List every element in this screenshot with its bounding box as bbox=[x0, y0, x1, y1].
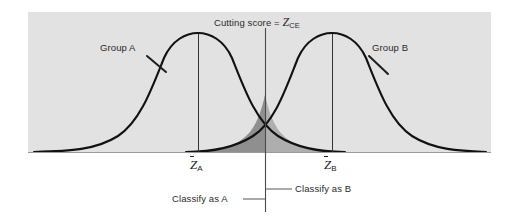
mean-label-group-b-subscript: B bbox=[331, 164, 336, 173]
mean-label-group-a-subscript: A bbox=[197, 164, 202, 173]
overbar-b bbox=[324, 156, 328, 157]
classify-as-b-label: Classify as B bbox=[295, 183, 351, 194]
cutting-score-title: Cutting score = ZCE bbox=[214, 15, 300, 30]
cutting-score-title-prefix: Cutting score = bbox=[214, 17, 282, 28]
mean-label-group-a: ZA bbox=[190, 155, 203, 173]
classify-as-a-label: Classify as A bbox=[172, 193, 228, 204]
diagram-canvas bbox=[0, 0, 518, 218]
overbar-a bbox=[190, 156, 194, 157]
group-b-label: Group B bbox=[372, 42, 408, 53]
mean-label-group-b: ZB bbox=[324, 155, 337, 173]
distribution-diagram: Cutting score = ZCE Group A Group B ZA Z… bbox=[0, 0, 518, 218]
cutting-score-title-subscript: CE bbox=[289, 21, 300, 30]
group-a-label: Group A bbox=[100, 42, 136, 53]
